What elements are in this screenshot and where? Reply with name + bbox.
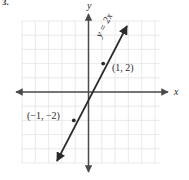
function-line (57, 26, 127, 161)
coordinate-plane-graphic (0, 0, 189, 180)
graph-figure: 3. (0, 0, 189, 180)
point-marker-neg1-neg2 (72, 119, 76, 123)
point-label-neg1-neg2: (−1, −2) (27, 110, 60, 121)
y-axis-label: y (87, 0, 91, 11)
point-label-1-2: (1, 2) (112, 62, 134, 73)
point-marker-1-2 (101, 62, 105, 66)
x-axis-label: x (174, 86, 178, 97)
